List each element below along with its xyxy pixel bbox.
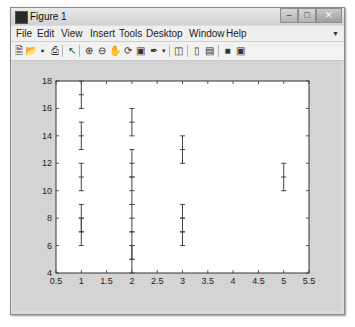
y-tick-label: 18 (42, 76, 52, 86)
y-tick-label: 14 (42, 131, 52, 141)
x-tick-label: 4.5 (252, 276, 265, 286)
x-tick-label: 1 (79, 276, 84, 286)
x-tick-label: 2.5 (151, 276, 164, 286)
y-tick-label: 12 (42, 158, 52, 168)
errorbar-chart: 0.511.522.533.544.555.54681012141618 (0, 0, 355, 327)
x-tick-label: 1.5 (100, 276, 113, 286)
x-tick-label: 5 (281, 276, 286, 286)
y-tick-label: 8 (47, 213, 52, 223)
x-tick-label: 5.5 (303, 276, 316, 286)
y-tick-label: 4 (47, 268, 52, 278)
x-tick-label: 4 (231, 276, 236, 286)
x-tick-label: 3 (180, 276, 185, 286)
y-tick-label: 10 (42, 186, 52, 196)
x-tick-label: 2 (129, 276, 134, 286)
y-tick-label: 16 (42, 103, 52, 113)
x-tick-label: 3.5 (202, 276, 215, 286)
y-tick-label: 6 (47, 241, 52, 251)
